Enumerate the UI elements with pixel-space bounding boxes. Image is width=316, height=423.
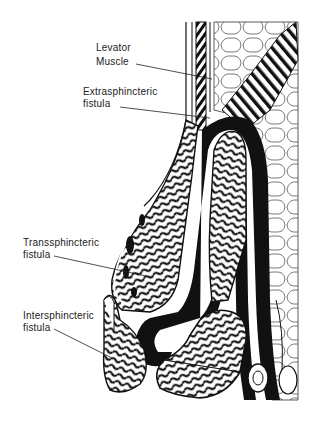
label-extrasphincteric-fistula: Extrasphincteric fistula — [83, 86, 157, 110]
anatomy-illustration — [0, 0, 316, 423]
label-levator-muscle: Levator Muscle — [96, 42, 131, 68]
label-line: fistula — [83, 98, 157, 110]
label-line: Levator — [96, 42, 131, 54]
label-line: Muscle — [96, 56, 131, 68]
label-line: Extrasphincteric — [83, 86, 157, 98]
label-line: fistula — [23, 322, 94, 334]
label-transsphincteric-fistula: Transsphincteric fistula — [23, 237, 99, 261]
label-line: Transsphincteric — [23, 237, 99, 249]
label-intersphincteric-fistula: Intersphincteric fistula — [23, 310, 94, 334]
label-line: Intersphincteric — [23, 310, 94, 322]
label-line: fistula — [23, 249, 99, 261]
mucosa-column — [112, 120, 198, 312]
